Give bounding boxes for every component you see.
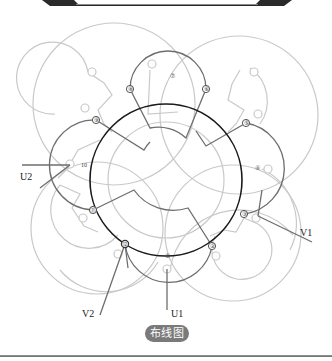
terminal-11: ⑪ (89, 206, 96, 214)
terminal-12: ⑫ (121, 240, 128, 248)
terminal-6: ⑥ (202, 85, 209, 92)
svg-text:⑨: ⑨ (94, 117, 99, 123)
svg-text:⑪: ⑪ (90, 206, 96, 214)
label-v2: V2 (82, 308, 94, 319)
terminal-5: ⑤ (242, 119, 249, 126)
svg-text:⑦: ⑦ (170, 73, 175, 79)
terminal-10: 10 (81, 162, 87, 168)
diagram-caption: 布线图 (145, 325, 189, 342)
svg-text:③: ③ (242, 211, 247, 217)
terminal-3: ③ (240, 210, 247, 217)
svg-text:②: ② (210, 243, 215, 249)
svg-text:④: ④ (255, 165, 260, 171)
label-v1: V1 (300, 227, 312, 238)
terminal-7: ⑦ (170, 73, 175, 79)
terminal-2: ② (208, 242, 215, 249)
svg-text:10: 10 (81, 162, 87, 168)
winding-diagram: ① ② ③ ④ ⑤ ⑥ ⑦ ⑧ ⑨ 10 ⑪ ⑫ U2 V1 V2 U1 (0, 0, 332, 361)
svg-text:①: ① (165, 253, 170, 259)
terminal-4: ④ (255, 165, 260, 171)
label-u2: U2 (20, 171, 32, 182)
terminal-8: ⑧ (126, 85, 133, 92)
top-banner (42, 0, 292, 6)
inactive-coils (17, 23, 318, 301)
terminal-1: ① (165, 253, 170, 259)
svg-text:⑧: ⑧ (128, 86, 133, 92)
svg-text:⑤: ⑤ (244, 120, 249, 126)
svg-text:⑥: ⑥ (204, 86, 209, 92)
terminal-9: ⑨ (92, 116, 99, 123)
label-u1: U1 (171, 308, 183, 319)
bottom-divider (0, 355, 332, 357)
stator-ring (90, 104, 242, 256)
svg-text:⑫: ⑫ (122, 240, 128, 248)
